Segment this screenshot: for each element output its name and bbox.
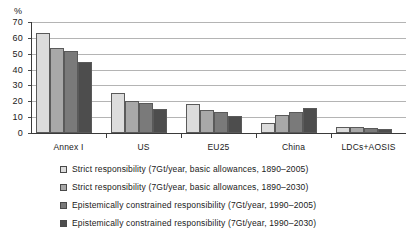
bar (78, 62, 92, 133)
legend-item: Strict responsibility (7Gt/year, basic a… (60, 178, 410, 196)
plot-area: % 010203040506070 Annex IUSEU25ChinaLDCs… (0, 0, 412, 158)
chart-legend: Strict responsibility (7Gt/year, basic a… (60, 160, 410, 232)
legend-swatch-icon (60, 220, 67, 227)
y-tick-label: 60 (3, 34, 23, 43)
bar (275, 115, 289, 133)
chart-figure: % 010203040506070 Annex IUSEU25ChinaLDCs… (0, 0, 412, 242)
y-tick-label: 0 (3, 129, 23, 138)
legend-label: Strict responsibility (7Gt/year, basic a… (72, 164, 308, 174)
legend-swatch-icon (60, 166, 67, 173)
x-axis-line (31, 133, 406, 134)
legend-item: Epistemically constrained responsibility… (60, 196, 410, 214)
bar (186, 104, 200, 133)
gridline (31, 38, 406, 39)
legend-label: Epistemically constrained responsibility… (72, 200, 316, 210)
bar (200, 110, 214, 133)
bar (303, 108, 317, 133)
gridline (31, 54, 406, 55)
y-tick-label: 10 (3, 113, 23, 122)
bar (214, 112, 228, 133)
bar (228, 116, 242, 133)
bar (153, 109, 167, 133)
legend-item: Epistemically constrained responsibility… (60, 214, 410, 232)
x-category-label: LDCs+AOSIS (321, 142, 412, 152)
bar (36, 33, 50, 133)
legend-item: Strict responsibility (7Gt/year, basic a… (60, 160, 410, 178)
y-axis-line (31, 22, 32, 134)
y-tick-label: 20 (3, 97, 23, 106)
y-tick-label: 50 (3, 50, 23, 59)
legend-label: Strict responsibility (7Gt/year, basic a… (72, 182, 308, 192)
bar (289, 112, 303, 133)
x-tick-mark (331, 134, 332, 138)
y-tick-label: 40 (3, 66, 23, 75)
bar (261, 123, 275, 133)
x-tick-mark (181, 134, 182, 138)
x-tick-mark (256, 134, 257, 138)
y-tick-label: 70 (3, 18, 23, 27)
y-tick-label: 30 (3, 81, 23, 90)
legend-swatch-icon (60, 184, 67, 191)
bar (125, 101, 139, 133)
bar (111, 93, 125, 133)
legend-swatch-icon (60, 202, 67, 209)
gridline (31, 22, 406, 23)
bar (50, 48, 64, 133)
legend-label: Epistemically constrained responsibility… (72, 218, 316, 228)
x-tick-mark (106, 134, 107, 138)
bar (139, 103, 153, 133)
y-axis-unit-label: % (14, 6, 22, 16)
bar (64, 51, 78, 133)
